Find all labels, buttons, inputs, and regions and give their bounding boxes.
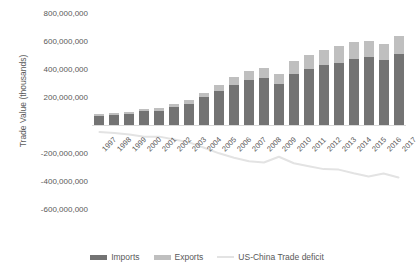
y-tick-label: 800,000,000 — [32, 9, 88, 18]
y-tick-label: 600,000,000 — [32, 37, 88, 46]
legend-item[interactable]: US-China Trade deficit — [217, 252, 324, 262]
y-tick-label: 400,000,000 — [32, 65, 88, 74]
y-tick-label: -400,000,000 — [32, 177, 88, 186]
legend-swatch-exports — [154, 255, 171, 260]
legend-item[interactable]: Exports — [154, 252, 204, 262]
legend-label: Exports — [175, 252, 204, 262]
y-tick-label: -200,000,000 — [32, 149, 88, 158]
y-tick-label: 200,000,000 — [32, 93, 88, 102]
chart-legend: ImportsExportsUS-China Trade deficit — [0, 252, 414, 262]
legend-swatch-deficit-line — [217, 256, 234, 258]
x-axis-tick-labels: 1997199819992000200120022003200420052006… — [92, 147, 406, 181]
legend-item[interactable]: Imports — [90, 252, 139, 262]
legend-label: Imports — [111, 252, 139, 262]
legend-label: US-China Trade deficit — [238, 252, 324, 262]
legend-swatch-imports — [90, 255, 107, 260]
y-tick-label: -600,000,000 — [32, 205, 88, 214]
y-axis-title: Trade Value (thousands) — [18, 36, 28, 166]
